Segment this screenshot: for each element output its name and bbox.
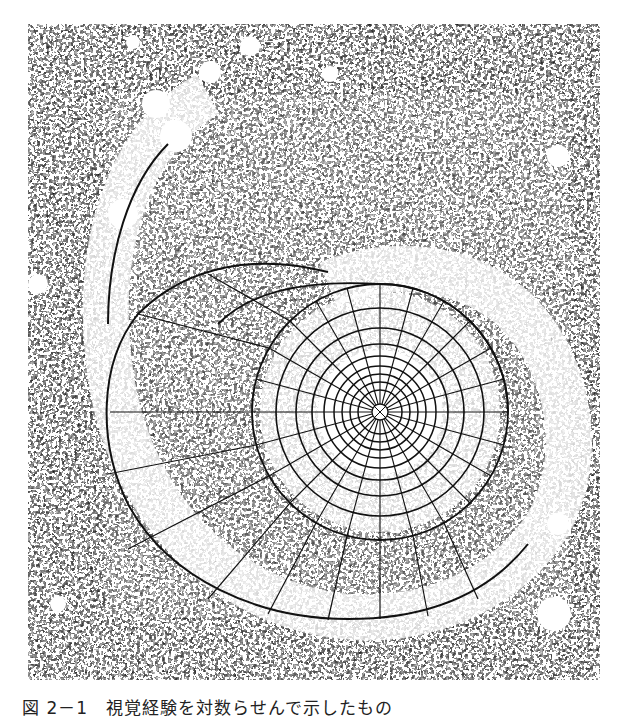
figure-caption: 図 2－1 視覚経験を対数らせんで示したもの [22, 697, 393, 719]
spiral-grid-illustration [28, 24, 600, 680]
spiral-grid-figure [28, 24, 600, 680]
